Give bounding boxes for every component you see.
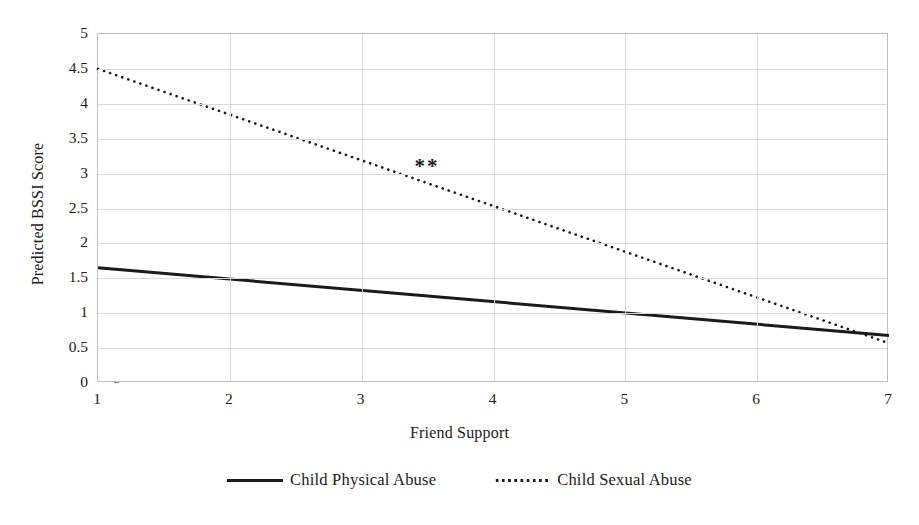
solid-line-icon xyxy=(227,479,283,482)
x-axis-tick-label: 7 xyxy=(868,391,908,407)
horizontal-gridline xyxy=(98,278,887,279)
x-axis-tick-label: 2 xyxy=(209,391,249,407)
legend-item-child-physical-abuse[interactable]: Child Physical Abuse xyxy=(227,470,436,490)
horizontal-gridline xyxy=(98,313,887,314)
vertical-gridline xyxy=(230,34,231,381)
horizontal-gridline xyxy=(98,104,887,105)
y-axis-tick-label: 1.5 xyxy=(28,269,88,285)
vertical-gridline xyxy=(625,34,626,381)
y-axis-tick-label: 4 xyxy=(28,95,88,111)
x-axis-tick-labels: 1234567 xyxy=(97,391,888,411)
horizontal-gridline xyxy=(98,69,887,70)
horizontal-gridline xyxy=(98,174,887,175)
chart-legend: Child Physical Abuse Child Sexual Abuse xyxy=(0,470,919,490)
horizontal-gridline xyxy=(98,209,887,210)
line-chart-figure: Predicted BSSI Score 00.511.522.533.544.… xyxy=(0,0,919,525)
vertical-gridline xyxy=(362,34,363,381)
y-axis-tick-label: 3 xyxy=(28,165,88,181)
vertical-gridline xyxy=(494,34,495,381)
x-axis-tick-label: 6 xyxy=(736,391,776,407)
legend-item-child-sexual-abuse[interactable]: Child Sexual Abuse xyxy=(494,470,692,490)
vertical-gridline xyxy=(757,34,758,381)
x-axis-tick-label: 3 xyxy=(341,391,381,407)
y-axis-tick-label: 0.5 xyxy=(28,339,88,355)
x-axis-tick-label: 1 xyxy=(77,391,117,407)
dotted-line-icon xyxy=(494,479,550,482)
horizontal-gridline xyxy=(98,243,887,244)
y-axis-tick-label: 2.5 xyxy=(28,200,88,216)
x-axis-title: Friend Support xyxy=(0,424,919,442)
y-axis-tick-label: 1 xyxy=(28,304,88,320)
legend-label: Child Sexual Abuse xyxy=(557,470,692,490)
x-axis-tick-label: 5 xyxy=(604,391,644,407)
y-axis-tick-label: 2 xyxy=(28,234,88,250)
legend-label: Child Physical Abuse xyxy=(290,470,436,490)
horizontal-gridline xyxy=(98,139,887,140)
horizontal-gridline xyxy=(98,348,887,349)
y-axis-tick-label: 3.5 xyxy=(28,130,88,146)
y-axis-tick-label: 4.5 xyxy=(28,60,88,76)
y-axis-tick-label: 0 xyxy=(28,374,88,390)
significance-annotation: ** xyxy=(415,156,440,177)
y-axis-tick-labels: 00.511.522.533.544.55 xyxy=(22,33,88,382)
y-axis-tick-label: 5 xyxy=(28,25,88,41)
plot-area xyxy=(97,33,888,382)
x-axis-tick-label: 4 xyxy=(473,391,513,407)
